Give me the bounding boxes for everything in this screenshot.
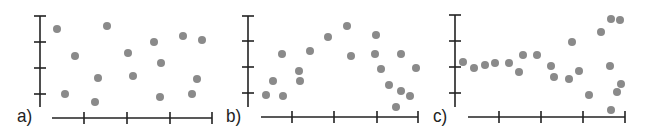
data-point bbox=[505, 59, 513, 67]
data-point bbox=[179, 32, 187, 40]
data-point bbox=[515, 68, 523, 76]
data-point bbox=[188, 90, 196, 98]
data-point bbox=[278, 50, 286, 58]
data-point bbox=[296, 77, 304, 85]
data-point bbox=[397, 50, 405, 58]
data-point bbox=[279, 92, 287, 100]
data-point bbox=[412, 64, 420, 72]
data-point bbox=[71, 52, 79, 60]
data-point bbox=[617, 80, 625, 88]
data-point bbox=[91, 98, 99, 106]
data-point bbox=[103, 22, 111, 30]
data-point bbox=[459, 58, 467, 66]
data-point bbox=[616, 16, 624, 24]
data-point bbox=[607, 15, 615, 23]
data-point bbox=[470, 64, 478, 72]
data-point bbox=[53, 25, 61, 33]
data-point bbox=[597, 28, 605, 36]
data-point bbox=[585, 91, 593, 99]
scatter-panel-b bbox=[242, 16, 420, 123]
data-point bbox=[156, 93, 164, 101]
scatter-panel-c bbox=[449, 15, 625, 123]
data-point bbox=[61, 90, 69, 98]
data-point bbox=[385, 81, 393, 89]
data-point bbox=[129, 72, 137, 80]
data-point bbox=[157, 59, 165, 67]
data-point bbox=[550, 73, 558, 81]
scatter-panel-a bbox=[34, 16, 212, 124]
data-point bbox=[193, 75, 201, 83]
data-point bbox=[397, 87, 405, 95]
data-point bbox=[607, 106, 615, 114]
data-point bbox=[306, 47, 314, 55]
data-point bbox=[392, 103, 400, 111]
panel-label: c) bbox=[433, 106, 447, 125]
data-point bbox=[295, 67, 303, 75]
data-point bbox=[613, 88, 621, 96]
data-point bbox=[372, 31, 380, 39]
data-point bbox=[262, 91, 270, 99]
data-point bbox=[324, 33, 332, 41]
data-point bbox=[347, 52, 355, 60]
panel-label: a) bbox=[17, 106, 32, 125]
data-point bbox=[491, 59, 499, 67]
scatter-plots-figure bbox=[0, 0, 650, 134]
data-point bbox=[568, 38, 576, 46]
data-point bbox=[377, 65, 385, 73]
data-point bbox=[533, 51, 541, 59]
data-point bbox=[94, 74, 102, 82]
data-point bbox=[150, 38, 158, 46]
data-point bbox=[565, 75, 573, 83]
data-point bbox=[343, 22, 351, 30]
data-point bbox=[371, 50, 379, 58]
data-point bbox=[519, 51, 527, 59]
data-point bbox=[575, 67, 583, 75]
data-point bbox=[481, 61, 489, 69]
data-point bbox=[124, 49, 132, 57]
data-point bbox=[406, 92, 414, 100]
data-point bbox=[198, 36, 206, 44]
data-point bbox=[269, 77, 277, 85]
data-point bbox=[547, 62, 555, 70]
data-point bbox=[606, 62, 614, 70]
panel-label: b) bbox=[226, 106, 241, 125]
